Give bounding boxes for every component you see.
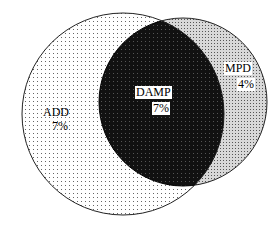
venn-shapes (0, 0, 278, 229)
mpd-value: 4% (237, 78, 255, 91)
damp-value: 7% (152, 102, 170, 115)
venn-diagram: ADD 7% DAMP 7% MPD 4% (0, 0, 278, 229)
add-label: ADD (43, 106, 69, 119)
mpd-label: MPD (224, 62, 252, 75)
add-value: 7% (52, 120, 68, 133)
damp-label: DAMP (135, 86, 172, 99)
